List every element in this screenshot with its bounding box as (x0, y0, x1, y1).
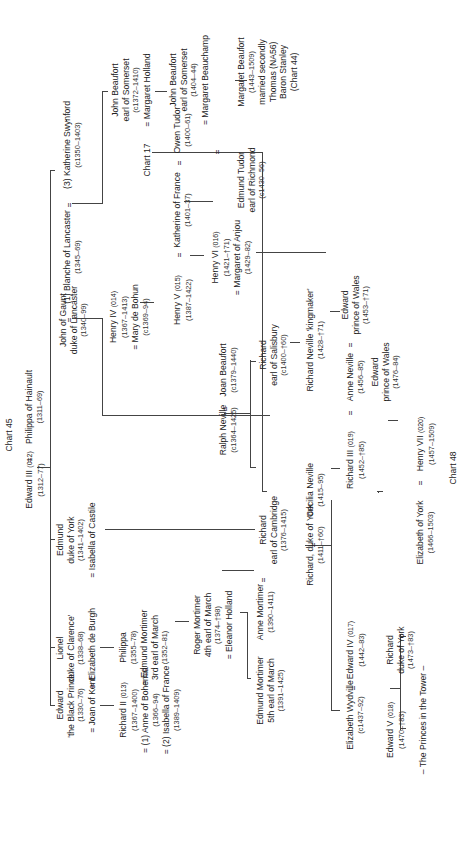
chart-17-ref[interactable]: Chart 17 (142, 130, 153, 190)
salisbury-to-kingmaker (290, 342, 300, 343)
neville-link (102, 415, 270, 416)
edward5-label: Edward V (018) (1470–†83) (385, 690, 407, 770)
kingmaker-label: Richard Neville 'kingmaker' (1428–†71) (305, 285, 326, 395)
blackprince-richard2 (100, 705, 114, 706)
lancaster-bar (102, 318, 103, 416)
roger-children (240, 612, 247, 613)
tudor-drop (212, 201, 213, 202)
margaret-beaufort-label: Margaret Beaufort (1443–1509) married se… (236, 22, 299, 122)
richard-cambridge-label: Richard earl of Cambridge (1376–1415) (258, 480, 290, 580)
cecilia-drop (250, 467, 256, 468)
roger-children-bar (247, 612, 248, 679)
edward-pow1-label: Edward prince of Wales (1453–†71) (340, 265, 372, 345)
chart-48-ref[interactable]: Chart 48 (448, 448, 459, 488)
edmund-york-label: Edmund duke of York (1341–1402) = Isabel… (55, 490, 97, 590)
beaufort-drop (102, 91, 108, 92)
edmund-mortimer-drop (247, 678, 251, 679)
richard3-to-edward (388, 420, 398, 421)
john-beaufort1-label: John Beaufort earl of Somerset (c1372–14… (110, 40, 152, 140)
philippa-roger (175, 621, 189, 622)
edmund-tudor-label: Edmund Tudor earl of Richmond (c1430–56) (236, 135, 268, 225)
edward4-label: Edward IV (017) (1442–83) (345, 610, 367, 690)
anne-neville-label: Anne Neville (1456–85) (345, 342, 366, 412)
edward3-children-bar (50, 170, 51, 706)
richard-salisbury-label: Richard earl of Salisbury (c1400–†60) (258, 315, 290, 395)
richard3-drop (331, 468, 340, 469)
edmund-mortimer5-label: Edmund Mortimer 5th earl of March (1391–… (255, 643, 287, 738)
philippa-hainault-label: Philippa of Hainault (1311–69) (24, 352, 45, 462)
philippa-label: Philippa (1355–78) = Edmund Mortimer 3rd… (118, 600, 171, 695)
kingmaker-to-anne (330, 311, 340, 312)
gaunt-branch (50, 170, 55, 171)
beaufort-1-2 (155, 91, 167, 92)
beaufort-bar (102, 91, 103, 204)
lionel-label: Lionel duke of Clarence' (1338–68) = Eli… (55, 598, 97, 698)
eq-swynford: = (64, 200, 75, 210)
eq-gaunt-blanche: = (64, 315, 75, 325)
katherine-france-label: Katherine of France (1401–37) (172, 165, 193, 255)
edward-pow2-label: Edward prince of Wales (1476–84) (370, 332, 402, 412)
edward4-drop (331, 710, 340, 711)
lionel-philippa (100, 647, 114, 648)
roger-mortimer-label: Roger Mortimer 4th earl of March (1374–†… (192, 575, 234, 675)
elizabeth-york-drop (378, 492, 379, 493)
cecilia-neville-label: Cecilia Neville (1415–95) (305, 450, 326, 530)
princes-in-tower-label: – The Princes in the Tower – (418, 650, 429, 790)
henry7-label: Henry VII (020) (1457–1509) (415, 404, 437, 484)
henry4-label: Henry IV (014) (1367–1413) = Mary de Boh… (108, 272, 151, 362)
richard3-label: Richard III (019) (1452–†85) (345, 420, 367, 500)
richard-york2-label: Richard duke of York (1473–†83) (385, 610, 417, 690)
mortimer-cambridge-marriage (222, 570, 254, 571)
katherine-swynford-label: (3) Katherine Swynford (c1350–1403) (62, 90, 83, 200)
joan-beaufort-label: Joan Beaufort (c1379–1440) (218, 330, 239, 410)
eq-york-cecilia: = (308, 540, 319, 550)
edmund-richard-cambridge (105, 529, 255, 530)
neville-children-bar (250, 360, 251, 468)
chart-45-ref[interactable]: Chart 45 (4, 405, 15, 465)
blanche-label: (1) Blanche of Lancaster (1345–69) (62, 202, 83, 312)
york-children-bar (331, 500, 332, 710)
elizabeth-york-connector (377, 491, 383, 492)
elizabeth-york-label: Elizabeth of York (1466–1503) (415, 485, 436, 580)
salisbury-drop (250, 361, 256, 362)
eq-tudor: = (212, 147, 223, 157)
owen-tudor-label: Owen Tudor (1400–61) (172, 100, 193, 160)
henry5-label: Henry V (015) (1387–1422) (172, 255, 194, 345)
henry6-to-prince (256, 252, 326, 253)
